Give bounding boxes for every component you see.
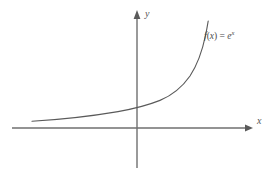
x-axis-label: x <box>257 116 261 126</box>
y-axis-label: y <box>145 9 149 19</box>
exponent: x <box>232 29 235 36</box>
curve-equation-label: f(x) = ex <box>204 32 234 42</box>
y-axis-arrowhead <box>134 10 141 19</box>
plot-canvas <box>0 0 273 176</box>
x-axis-arrowhead <box>245 124 253 131</box>
exponential-function-graph: y x f(x) = ex <box>0 0 273 176</box>
equals-sign: = <box>217 31 227 41</box>
exponential-curve <box>32 21 208 121</box>
